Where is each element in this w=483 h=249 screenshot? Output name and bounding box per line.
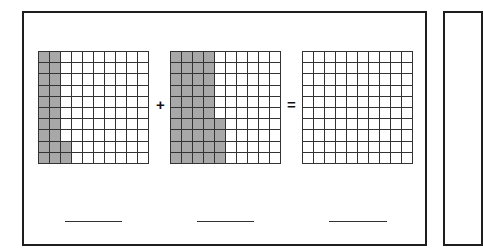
grid-cell [259,108,270,119]
grid-cell [94,52,105,63]
grid-cell [347,153,358,164]
grid-cell [303,153,314,164]
grid-cell [105,86,116,97]
grid-cell [127,74,138,85]
grid-cell [215,86,226,97]
grid-cell [61,142,72,153]
grid-cell [61,153,72,164]
grid-cell [391,74,402,85]
grid-cell [270,130,281,141]
grid-cell [171,74,182,85]
grid-cell [83,86,94,97]
grid-cell [105,142,116,153]
grid-cell [358,74,369,85]
grid-cell [204,108,215,119]
grid-cell [358,108,369,119]
grid-cell [50,86,61,97]
grid-cell [369,86,380,97]
grid-cell [391,119,402,130]
grid-cell [391,52,402,63]
grid-cell [237,108,248,119]
answer-blank-1[interactable] [65,221,122,223]
grid-cell [358,86,369,97]
grid-cell [248,52,259,63]
grid-cell [83,108,94,119]
grid-cell [83,130,94,141]
grid-cell [116,108,127,119]
grid-cell [94,97,105,108]
grid-cell [259,52,270,63]
grid-cell [391,97,402,108]
grid-cell [215,63,226,74]
grid-cell [358,142,369,153]
grid-cell [171,86,182,97]
grid-cell [204,119,215,130]
grid-cell [270,52,281,63]
grid-cell [314,97,325,108]
grid-cell [94,142,105,153]
grid-cell [402,97,413,108]
grid-cell [39,52,50,63]
grid-cell [270,108,281,119]
grid-cell [402,74,413,85]
grid-cell [61,63,72,74]
grid-cell [303,130,314,141]
grid-cell [127,119,138,130]
grid-cell [402,153,413,164]
grid-cell [72,153,83,164]
grid-cell [270,153,281,164]
grid-cell [248,86,259,97]
grid-cell [259,63,270,74]
grid-cell [72,130,83,141]
grid-cell [83,52,94,63]
grid-cell [259,86,270,97]
grid-cell [171,119,182,130]
grid-cell [380,52,391,63]
grid-cell [127,130,138,141]
answer-blank-2[interactable] [197,221,254,223]
grid-cell [402,108,413,119]
grid-cell [380,153,391,164]
grid-cell [237,130,248,141]
grid-cell [204,74,215,85]
grid-cell [259,153,270,164]
grid-cell [380,74,391,85]
grid-cell [237,97,248,108]
grid-cell [193,74,204,85]
grid-cell [259,142,270,153]
grid-cell [72,119,83,130]
grid-cell [105,108,116,119]
grid-cell [336,142,347,153]
grid-cell [336,119,347,130]
grid-cell [193,130,204,141]
grid-cell [138,63,149,74]
grid-cell [347,130,358,141]
grid-cell [182,74,193,85]
grid-cell [369,142,380,153]
grid-cell [182,86,193,97]
grid-cell [314,130,325,141]
grid-cell [369,63,380,74]
grid-cell [380,97,391,108]
grid-cell [270,97,281,108]
grid-cell [237,63,248,74]
grid-cell [215,52,226,63]
grid-cell [138,142,149,153]
answer-blank-3[interactable] [329,221,387,223]
grid-cell [215,74,226,85]
grid-cell [336,74,347,85]
grid-cell [94,130,105,141]
grid-cell [138,119,149,130]
grid-cell [226,86,237,97]
grid-cell [402,86,413,97]
grid-cell [193,153,204,164]
grid-cell [237,86,248,97]
grid-cell [248,142,259,153]
grid-cell [138,74,149,85]
grid-cell [204,130,215,141]
grid-cell [61,86,72,97]
grid-cell [127,108,138,119]
grid-cell [116,52,127,63]
grid-cell [325,52,336,63]
grid-cell [347,97,358,108]
